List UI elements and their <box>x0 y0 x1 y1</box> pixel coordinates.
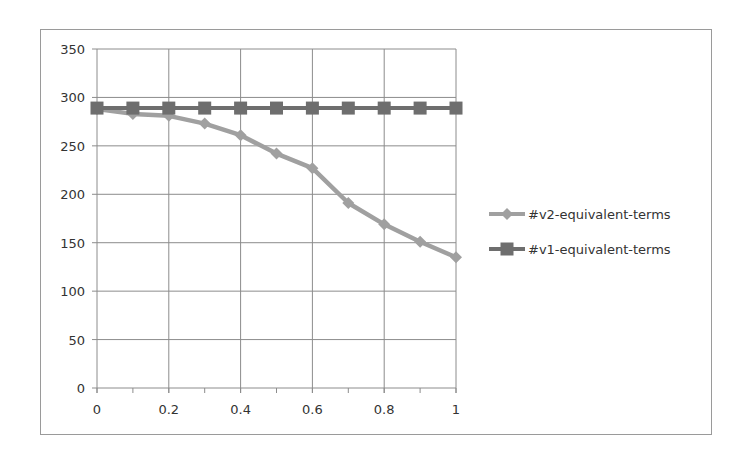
square-marker <box>414 102 427 115</box>
square-marker <box>450 102 463 115</box>
x-tick-label: 0.6 <box>302 402 323 417</box>
data-series <box>91 102 463 264</box>
square-marker <box>342 102 355 115</box>
y-tick-label: 300 <box>60 90 85 105</box>
y-tick-label: 50 <box>68 333 85 348</box>
diamond-marker <box>199 118 211 130</box>
square-marker <box>91 102 104 115</box>
square-marker <box>162 102 175 115</box>
x-tick-label: 0.4 <box>230 402 251 417</box>
x-tick-label: 0.8 <box>374 402 395 417</box>
legend-label: #v2-equivalent-terms <box>528 207 671 222</box>
x-tick-label: 1 <box>452 402 460 417</box>
legend: #v2-equivalent-terms#v1-equivalent-terms <box>489 207 671 257</box>
x-tick-label: 0 <box>93 402 101 417</box>
square-marker <box>378 102 391 115</box>
y-axis-ticks: 050100150200250300350 <box>60 42 85 396</box>
x-tick-label: 0.2 <box>158 402 179 417</box>
series-v2-equivalent-terms <box>91 103 462 263</box>
y-tick-label: 200 <box>60 187 85 202</box>
legend-label: #v1-equivalent-terms <box>528 242 671 257</box>
legend-item: #v1-equivalent-terms <box>489 242 671 257</box>
gridlines <box>92 49 456 393</box>
square-marker <box>234 102 247 115</box>
y-tick-label: 350 <box>60 42 85 57</box>
y-tick-label: 100 <box>60 284 85 299</box>
x-axis-ticks: 00.20.40.60.81 <box>93 402 460 417</box>
legend-square-icon <box>501 243 514 256</box>
y-tick-label: 150 <box>60 236 85 251</box>
square-marker <box>126 102 139 115</box>
legend-diamond-icon <box>501 208 513 220</box>
square-marker <box>306 102 319 115</box>
y-tick-label: 250 <box>60 139 85 154</box>
square-marker <box>270 102 283 115</box>
legend-item: #v2-equivalent-terms <box>489 207 671 222</box>
line-chart: 050100150200250300350 00.20.40.60.81 #v2… <box>0 0 747 457</box>
y-tick-label: 0 <box>77 381 85 396</box>
square-marker <box>198 102 211 115</box>
